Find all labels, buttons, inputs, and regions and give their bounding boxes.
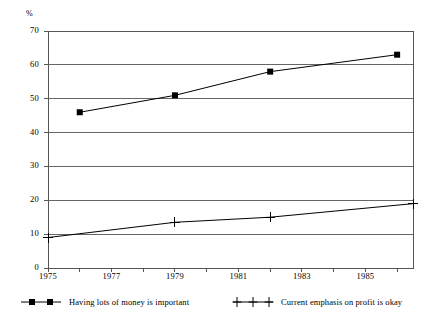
y-tick-label: 0 [15, 263, 39, 272]
x-tick-label: 1981 [218, 272, 258, 281]
y-tick-label: 20 [15, 195, 39, 204]
legend-key-plus-icon [232, 295, 274, 309]
x-tick-label: 1979 [155, 272, 195, 281]
legend-label-profit: Current emphasis on profit is okay [281, 297, 402, 308]
y-tick-label: 40 [15, 128, 39, 137]
y-axis-unit-label: % [26, 9, 33, 19]
x-tick-label: 1985 [345, 272, 385, 281]
legend-label-money: Having lots of money is important [69, 297, 189, 308]
y-axis-ticks [44, 31, 48, 268]
y-tick-label: 60 [15, 60, 39, 69]
x-tick-label: 1975 [28, 272, 68, 281]
y-tick-label: 30 [15, 161, 39, 170]
legend-key-square-icon [20, 295, 62, 309]
legend-entry-money: Having lots of money is important [20, 294, 189, 310]
x-tick-label: 1977 [91, 272, 131, 281]
x-tick-label: 1983 [282, 272, 322, 281]
line-chart: % 010203040506070 1975197719791981198319… [0, 0, 421, 318]
y-tick-label: 10 [15, 229, 39, 238]
y-tick-label: 70 [15, 26, 39, 35]
y-tick-label: 50 [15, 94, 39, 103]
legend-entry-profit: Current emphasis on profit is okay [232, 294, 402, 310]
legend: Having lots of money is important Curren… [0, 294, 421, 312]
plot-frame [48, 31, 413, 268]
series-layer [43, 52, 418, 243]
